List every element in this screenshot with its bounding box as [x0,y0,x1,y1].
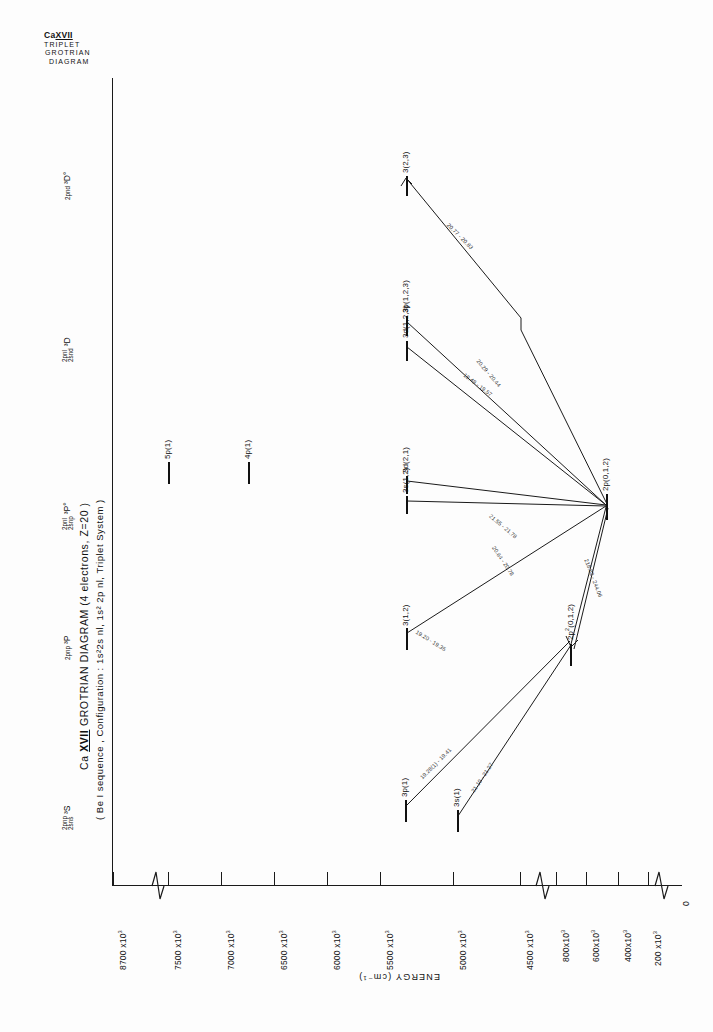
energy-level-label: 3d(1,2,3) [401,305,410,338]
axis-tick [274,872,275,886]
column-header-config: 2pnd [65,186,71,200]
column-header-3S: 2pnp 2sns ³S [62,805,75,830]
axis-tick-label: 7500 x103 [172,930,183,970]
transition-line-3p1-to-2p2 [406,641,570,806]
energy-level-bar [606,494,608,520]
column-header-config: 2pnl 2snp [62,516,75,530]
transition-line-2p2-to-2p-a [570,507,606,648]
column-header-config: 2pnl 2snd [62,348,75,362]
axis-tick [113,872,114,886]
axis-tick [520,872,521,886]
axis-break-upper [152,872,164,899]
axis-break-mid [536,872,549,899]
energy-level-bar [406,176,408,196]
energy-level-bar [168,462,170,484]
energy-level-bar [406,628,408,650]
energy-level-bar [457,810,459,832]
axis-tick-label: 6500 x103 [278,930,289,970]
column-header-term: ³D [62,337,72,348]
axis-title-units: (cm⁻¹) [358,972,391,982]
axis-break-lower [655,872,668,899]
axis-tick [586,872,587,886]
energy-level-label: 4p(1) [243,440,252,459]
energy-level-label: 2p(0,1,2) [601,458,610,491]
axis-tick [556,872,557,886]
energy-level-label: 3s(1,2) [401,467,410,493]
energy-level-bar [406,341,408,361]
transition-line-3_23-to-2p [406,178,607,504]
axis-tick-label: 400x103 [622,929,633,962]
axis-tick [168,872,169,886]
energy-level-bar [248,462,250,484]
axis-tick-label: 600x103 [590,929,601,962]
axis-tick [618,872,619,886]
axis-tick-label: 4500 x103 [524,930,535,970]
column-header-3Do: 2pnd ³D° [62,172,72,200]
axis-tick-label: 8700 x103 [117,930,128,970]
column-header-term: ³S [62,805,72,816]
column-header-config: 2pnp [65,646,71,660]
column-header-config: 2pnp 2sns [62,816,75,830]
axis-tick [221,872,222,886]
axis-tick-label: 6000 x103 [331,930,342,970]
energy-level-bar [405,800,407,822]
energy-level-label: 3(1,2) [401,605,410,627]
column-header-3P: 2pnp ³P [62,635,72,660]
axis-tick-label: 5500 x103 [384,930,395,970]
transition-line-3d123-to-2p [407,347,606,505]
column-header-3Po: 2pnl 2snp ³P° [62,502,75,530]
axis-tick-label: 200 x103 [652,931,663,966]
axis-tick-label: 0 [681,901,691,906]
axis-tick [453,872,454,886]
axis-title: ENERGY (cm⁻¹) [358,972,440,982]
axis-title-text: ENERGY [395,972,440,982]
axis-tick [648,872,649,886]
energy-level-label: 5p(1) [163,440,172,459]
energy-level-label: 3(2,3) [401,152,410,174]
energy-level-bar [406,496,408,514]
column-header-term: ³P [62,635,72,646]
column-header-3D: 2pnl 2snd ³D [62,337,75,362]
energy-level-label: 3p(1) [400,778,409,797]
column-header-term: ³D° [62,172,72,186]
transition-line-3p123-to-2p [407,322,606,505]
energy-level-bar [570,644,572,666]
column-header-term: ³P° [62,502,72,516]
energy-level-label: 2p22p²(0,1,2)(0,1,2) [564,604,575,640]
diagram-sheet: CaXVII TRIPLET GROTRIAN DIAGRAM Ca XVII … [0,0,713,1032]
axis-tick [380,872,381,886]
energy-level-label: 3s(1) [452,788,461,807]
axis-tick-label: 7000 x103 [225,930,236,970]
axis-tick-label: 800x103 [560,929,571,962]
axis-tick [327,872,328,886]
axis-tick-label: 5000 x103 [457,930,468,970]
